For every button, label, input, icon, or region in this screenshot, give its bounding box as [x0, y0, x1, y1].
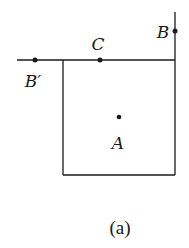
- label-b: B: [156, 22, 170, 42]
- point-c: [98, 58, 103, 63]
- point-a: [117, 115, 122, 120]
- diagram-canvas: A B C B′ (a): [0, 0, 189, 248]
- label-b-prime: B′: [24, 71, 41, 91]
- label-a: A: [110, 133, 124, 153]
- figure-caption: (a): [109, 217, 130, 239]
- point-b: [173, 29, 178, 34]
- label-c: C: [91, 34, 104, 54]
- point-b-prime: [33, 58, 38, 63]
- geometry-figure: A B C B′ (a): [0, 0, 189, 248]
